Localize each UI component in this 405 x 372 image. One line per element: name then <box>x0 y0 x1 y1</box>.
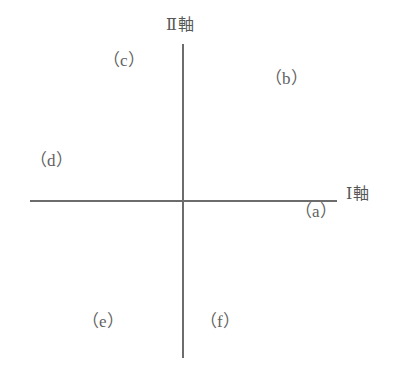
region-label-e: （e） <box>82 313 124 330</box>
vertical-axis-label: Ⅱ軸 <box>166 17 195 33</box>
region-label-c: （c） <box>103 52 145 69</box>
region-label-f: （f） <box>200 313 240 330</box>
horizontal-axis-label: Ⅰ軸 <box>346 186 370 202</box>
coordinate-plane-diagram: Ⅱ軸 Ⅰ軸 （c） （b） （d） （a） （e） （f） <box>0 0 405 372</box>
vertical-axis-line <box>182 44 184 358</box>
region-label-b: （b） <box>265 70 308 87</box>
region-label-d: （d） <box>30 152 73 169</box>
region-label-a: （a） <box>295 203 337 220</box>
